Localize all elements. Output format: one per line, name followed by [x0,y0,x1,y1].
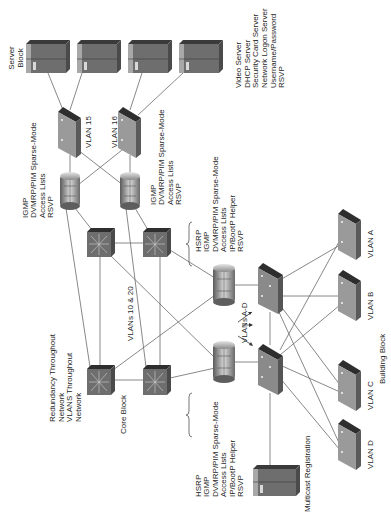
link-core2-brouter1 [170,250,215,278]
vlan15-switch-icon [58,107,81,158]
svg-text:Redundancy Throughout: Redundancy Throughout [48,333,57,422]
server-router-2-icon [120,172,140,210]
link-router1-core1 [75,208,92,230]
access-switch-vlan-d-icon [338,419,361,470]
vlan-b-label: VLAN B [366,292,375,320]
link-server4-vlan16 [138,73,183,115]
network-diagram: Server Block Video Server DHCP Server Se… [0,0,391,518]
link-server3-vlan16 [130,73,142,110]
vlan-d-label: VLAN D [366,440,375,469]
svg-text:DVMRP/PIM Sparse-Mode: DVMRP/PIM Sparse-Mode [29,122,38,218]
building-router-1-features: HSRP IGMP DVMRP/PIM Sparse-Mode Access L… [194,156,245,252]
server-icon [179,40,223,73]
server-router-2-features: IGMP DVMRP/PIM Sparse-Mode Access Lists … [149,109,183,205]
access-switch-vlan-a-icon [338,209,361,260]
multicast-server-icon [253,465,300,496]
building-router-2-icon [213,341,235,383]
server-router-1-icon [60,172,80,210]
building-block-label: Building Block [378,333,387,384]
access-switch-vlan-c-icon [338,360,361,411]
server-block [26,40,223,73]
server-services-list: Video Server DHCP Server Security Card S… [234,8,286,88]
server-block-label: Server Block [7,46,25,70]
svg-text:DVMRP/PIM Sparse-Mode: DVMRP/PIM Sparse-Mode [157,109,166,205]
core-switch-1-icon [87,228,115,257]
multicast-registration-label: Multicast Registration [303,436,312,512]
link-server2-vlan15 [70,73,82,110]
svg-text:Access Lists: Access Lists [219,208,228,252]
link-dist1-vlanA [280,245,340,280]
link-server1-vlan15 [48,73,63,110]
access-switch-vlan-b-icon [338,270,361,321]
vlan-c-label: VLAN C [366,381,375,410]
distribution-switch-2-icon [258,344,283,395]
link-dist2-vlanA [280,240,340,350]
core-switch-3-icon [87,365,115,395]
building-router-2-features: HSRP IGMP DVMRP/PIM Sparse-Mode Access L… [194,401,245,497]
distribution-switch-1-icon [258,263,283,314]
server-icon [26,40,70,73]
core-switch-4-icon [143,365,171,395]
vlan16-label: VLAN 16 [110,115,119,148]
link-dist1-vlanD [278,310,340,445]
svg-text:Block: Block [16,47,25,68]
svg-text:Network: Network [74,392,83,422]
svg-text:Video Server: Video Server [234,42,243,88]
svg-text:RSVP: RSVP [174,183,183,205]
svg-text:RSVP: RSVP [46,196,55,218]
svg-text:RSVP: RSVP [277,66,286,88]
core-switch-2-icon [143,228,171,257]
svg-text:Network Logon Server: Network Logon Server [260,8,269,88]
svg-text:Security Card Server: Security Card Server [251,13,260,88]
svg-text:IGMP: IGMP [202,232,211,252]
core-vlans-label: VLANs 10 & 20 [126,286,135,341]
link-core4-brouter2 [170,368,215,378]
link-router2-core2 [135,208,148,230]
upper-router-brace [186,222,192,266]
link-router1-core3 [66,208,90,367]
link-dist1-vlanC [280,305,340,385]
server-icon [128,40,172,73]
vlan15-label: VLAN 15 [84,115,93,148]
svg-text:IGMP: IGMP [202,477,211,497]
svg-text:Access Lists: Access Lists [219,453,228,497]
svg-text:VLANS Throughout: VLANS Throughout [65,352,74,422]
building-vlans-label: VLANs A-D [240,302,249,343]
link-dist2-vlanC [280,365,340,392]
lower-router-brace [186,393,192,437]
link-dist2-vlanB [280,305,340,355]
server-icon [77,40,121,73]
building-router-1-icon [213,264,235,306]
svg-text:Server: Server [7,46,16,70]
server-router-1-features: IGMP DVMRP/PIM Sparse-Mode Access Lists … [21,122,55,218]
core-notes: Redundancy Throughout Network VLANS Thro… [48,333,83,422]
vlan-a-label: VLAN A [366,229,375,258]
core-block-label: Core Block [119,394,128,434]
svg-text:RSVP: RSVP [236,475,245,497]
svg-text:RSVP: RSVP [236,230,245,252]
